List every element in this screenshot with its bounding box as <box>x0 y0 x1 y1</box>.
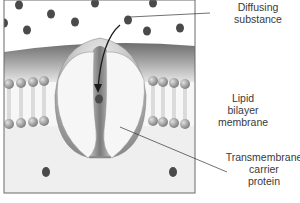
label-line: membrane <box>213 116 273 128</box>
label-line: protein <box>222 175 300 187</box>
molecule-in-channel <box>95 95 103 104</box>
label-line: Transmembrane <box>222 151 300 163</box>
label-line: carrier <box>222 163 300 175</box>
label-line: Lipid <box>213 92 273 104</box>
label-diffusing-substance: Diffusing substance <box>213 1 300 25</box>
label-line: bilayer <box>213 104 273 116</box>
label-line: substance <box>213 13 300 25</box>
label-carrier-protein: Transmembrane carrier protein <box>222 151 300 187</box>
label-line: Diffusing <box>213 1 300 13</box>
label-lipid-bilayer: Lipid bilayer membrane <box>213 92 273 128</box>
